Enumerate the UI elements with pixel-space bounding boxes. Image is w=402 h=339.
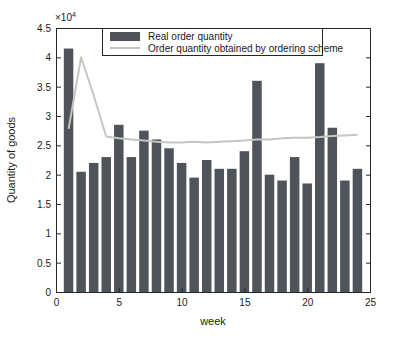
bar-week-24 (353, 169, 363, 292)
y-exponent-power: 4 (72, 11, 76, 18)
legend-label: Real order quantity (148, 31, 233, 42)
bar-week-5 (114, 125, 124, 292)
bar-week-10 (177, 163, 187, 292)
y-tick-label: 1.5 (37, 199, 51, 210)
legend-label: Order quantity obtained by ordering sche… (148, 43, 343, 54)
bar-week-8 (152, 139, 162, 292)
bar-week-9 (164, 148, 174, 292)
x-tick-label: 10 (177, 297, 189, 308)
bar-week-14 (227, 169, 237, 292)
y-axis-label: Quantity of goods (5, 117, 17, 203)
x-tick-label: 20 (302, 297, 314, 308)
legend-item-ordering-scheme: Order quantity obtained by ordering sche… (110, 42, 318, 54)
legend: Real order quantity Order quantity obtai… (102, 28, 323, 56)
bar-week-18 (277, 181, 287, 292)
bar-week-23 (340, 181, 350, 292)
y-exponent-base: ×10 (55, 12, 72, 23)
y-tick-label: 3 (45, 111, 51, 122)
x-tick-label: 25 (365, 297, 377, 308)
bar-week-22 (328, 128, 338, 292)
bar-week-3 (89, 163, 99, 292)
ordering-scheme-line (69, 57, 358, 142)
y-tick-label: 0 (45, 287, 51, 298)
y-tick-label: 4.5 (37, 23, 51, 34)
bar-week-11 (189, 178, 199, 292)
bar-week-20 (302, 183, 312, 292)
bar-week-19 (290, 157, 300, 292)
y-tick-label: 1 (45, 228, 51, 239)
bar-week-15 (240, 151, 250, 292)
bar-week-21 (315, 63, 325, 292)
bar-week-17 (265, 175, 275, 292)
x-axis-label: week (56, 315, 370, 327)
bar-week-2 (76, 172, 86, 292)
y-tick-label: 3.5 (37, 82, 51, 93)
bar-week-16 (252, 81, 262, 292)
bar-week-7 (139, 131, 149, 292)
bar-week-6 (127, 157, 137, 292)
y-tick-label: 4 (45, 52, 51, 63)
x-tick-label: 0 (54, 297, 60, 308)
y-axis-exponent: ×104 (55, 11, 76, 23)
legend-item-real-order: Real order quantity (110, 30, 318, 42)
y-tick-label: 2.5 (37, 140, 51, 151)
bar-week-4 (101, 157, 111, 292)
legend-swatch-bar (110, 32, 140, 41)
bar-week-1 (64, 49, 73, 292)
bar-week-13 (215, 169, 225, 292)
x-tick-label: 5 (117, 297, 123, 308)
order-quantity-chart: 051015202500.511.522.533.544.5 ×104 Quan… (0, 0, 402, 339)
legend-swatch-line (110, 47, 140, 49)
bar-week-12 (202, 160, 212, 292)
y-tick-label: 0.5 (37, 258, 51, 269)
y-tick-label: 2 (45, 170, 51, 181)
x-tick-label: 15 (239, 297, 251, 308)
